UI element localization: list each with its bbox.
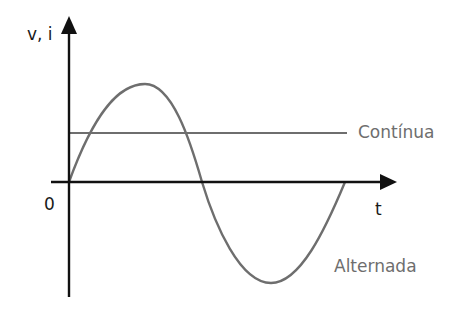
ac-sine-curve: [69, 84, 345, 283]
x-axis-label: t: [375, 201, 382, 218]
origin-label: 0: [44, 196, 55, 213]
series-label-alternada: Alternada: [334, 258, 417, 275]
series-label-continua: Contínua: [358, 124, 434, 141]
y-axis-arrow-icon: [61, 16, 77, 34]
y-axis-label: v, i: [27, 26, 53, 43]
x-axis-arrow-icon: [380, 174, 397, 190]
